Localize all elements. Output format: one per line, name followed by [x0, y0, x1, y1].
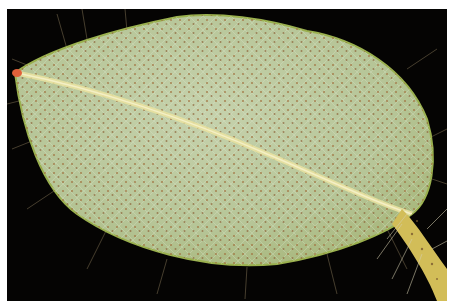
- leaf-illustration: [7, 9, 447, 301]
- leaf-photo: [7, 9, 447, 301]
